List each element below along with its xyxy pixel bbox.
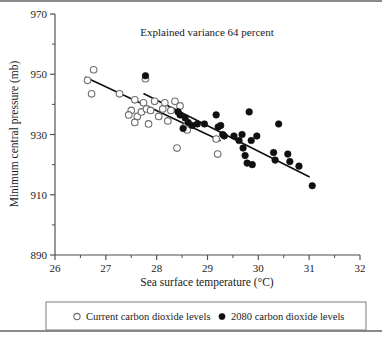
y-tick-label: 970 (31, 8, 48, 20)
data-point (221, 133, 228, 140)
data-point (236, 137, 243, 144)
data-point (217, 122, 224, 129)
y-tick-label: 950 (31, 68, 48, 80)
data-point (275, 121, 282, 128)
x-tick-label: 27 (100, 262, 112, 274)
x-tick-label: 28 (151, 262, 163, 274)
data-point (309, 182, 316, 189)
data-point (125, 112, 132, 119)
data-point (248, 137, 255, 144)
x-axis-title: Sea surface temperature (°C) (140, 276, 273, 289)
data-point (239, 131, 246, 138)
figure-container: 890910930950970 26272829303132 Explained… (0, 0, 382, 342)
scatter-plot: 890910930950970 26272829303132 Explained… (0, 0, 382, 342)
y-axis-title: Minimum central pressure (mb) (8, 61, 21, 208)
data-point (174, 145, 181, 152)
legend-label-current-co2: Current carbon dioxide levels (86, 311, 211, 322)
data-point (116, 91, 123, 98)
data-point (90, 66, 97, 73)
data-point (155, 113, 162, 120)
data-point (168, 107, 175, 114)
plot-title: Explained variance 64 percent (140, 26, 273, 38)
x-tick-label: 29 (202, 262, 214, 274)
data-point (194, 121, 201, 128)
data-point (242, 152, 249, 159)
data-point (213, 136, 220, 143)
data-point (132, 119, 139, 126)
x-axis-tick-labels: 26272829303132 (50, 262, 366, 274)
series-current-co2-points (84, 66, 221, 157)
data-point (201, 121, 208, 128)
x-axis-ticks (55, 255, 360, 260)
data-point (147, 107, 154, 114)
data-point (165, 118, 172, 125)
data-point (88, 91, 95, 98)
data-point (145, 121, 152, 128)
y-axis-ticks (50, 14, 55, 255)
data-point (240, 145, 247, 152)
data-point (84, 77, 91, 84)
data-point (162, 100, 169, 107)
data-point (272, 157, 279, 164)
data-point (151, 98, 158, 105)
legend-marker-filled-circle-icon (219, 313, 225, 319)
y-tick-label: 910 (31, 189, 48, 201)
x-tick-label: 26 (50, 262, 62, 274)
data-point (132, 97, 139, 104)
data-point (246, 109, 253, 116)
y-tick-label: 890 (31, 249, 48, 261)
data-point (287, 158, 294, 165)
data-point (142, 72, 149, 79)
data-point (285, 151, 292, 158)
data-point (214, 151, 221, 158)
x-tick-label: 32 (355, 262, 366, 274)
data-point (213, 112, 220, 119)
data-point (270, 149, 277, 156)
legend-marker-open-circle-icon (74, 313, 80, 319)
series-2080-co2-points (142, 72, 315, 189)
data-point (180, 125, 187, 132)
data-point (249, 161, 256, 168)
legend-label-2080-co2: 2080 carbon dioxide levels (231, 311, 344, 322)
x-tick-label: 30 (253, 262, 265, 274)
data-point (177, 103, 184, 110)
data-point (254, 133, 261, 140)
y-axis-tick-labels: 890910930950970 (31, 8, 48, 261)
data-point (296, 163, 303, 170)
x-tick-label: 31 (304, 262, 315, 274)
y-tick-label: 930 (31, 129, 48, 141)
